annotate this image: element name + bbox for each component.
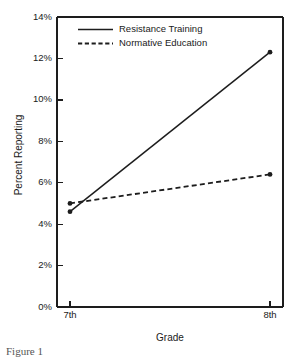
y-tick-label: 12%	[33, 52, 53, 63]
x-axis-tick-labels: 7th 8th	[63, 309, 276, 320]
series-line-dashed	[70, 174, 270, 203]
line-chart: 14% 12% 10% 8% 6% 4% 2% 0% 7th 8th Grade…	[0, 0, 294, 358]
y-tick-label: 0%	[38, 301, 52, 312]
y-tick-label: 10%	[33, 93, 53, 104]
y-tick-label: 8%	[38, 135, 52, 146]
x-tick-label-8th: 8th	[263, 309, 276, 320]
data-point-marker	[68, 209, 73, 214]
legend-label-normative-education: Normative Education	[119, 37, 207, 48]
x-tick-label-7th: 7th	[63, 309, 76, 320]
chart-legend: Resistance Training Normative Education	[78, 23, 207, 48]
y-tick-label: 2%	[38, 259, 52, 270]
data-point-marker	[268, 172, 273, 177]
x-axis-title: Grade	[156, 332, 184, 343]
y-tick-label: 6%	[38, 176, 52, 187]
y-axis-title: Percent Reporting	[13, 115, 24, 196]
figure-caption-text: Figure 1	[6, 345, 126, 358]
figure-caption: Figure 1	[6, 345, 126, 358]
y-tick-label: 4%	[38, 218, 52, 229]
figure-container: 14% 12% 10% 8% 6% 4% 2% 0% 7th 8th Grade…	[0, 0, 294, 358]
x-axis-ticks	[70, 301, 270, 307]
data-point-marker	[268, 50, 273, 55]
y-axis-tick-labels: 14% 12% 10% 8% 6% 4% 2% 0%	[33, 11, 53, 312]
y-axis-ticks	[57, 17, 63, 307]
y-tick-label: 14%	[33, 11, 53, 22]
data-point-marker	[68, 201, 73, 206]
legend-label-resistance-training: Resistance Training	[119, 23, 202, 34]
series-line-solid	[70, 52, 270, 212]
